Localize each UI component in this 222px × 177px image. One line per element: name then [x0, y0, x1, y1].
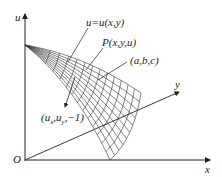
normal-suffix: ,−1) — [65, 111, 84, 123]
normal-mid: ,u — [53, 111, 61, 123]
leader-surface-equation — [68, 28, 88, 62]
x-axis-label: x — [205, 164, 210, 175]
leader-direction — [98, 62, 127, 80]
origin-label: O — [13, 154, 21, 165]
point-label: P(x,y,u) — [102, 37, 136, 48]
u-axis-label: u — [15, 12, 21, 23]
surface-equation-label: u=u(x,y) — [86, 17, 124, 28]
direction-vector-label: (a,b,c) — [130, 55, 159, 66]
surface-diagram: u x y O u=u(x,y) P(x,y,u) (a,b,c) (ux,uy… — [0, 0, 222, 177]
normal-vector-label: (ux,uy,−1) — [41, 112, 84, 126]
y-axis-label: y — [175, 79, 180, 90]
surface-mesh — [25, 45, 141, 160]
normal-prefix: (u — [41, 111, 50, 123]
